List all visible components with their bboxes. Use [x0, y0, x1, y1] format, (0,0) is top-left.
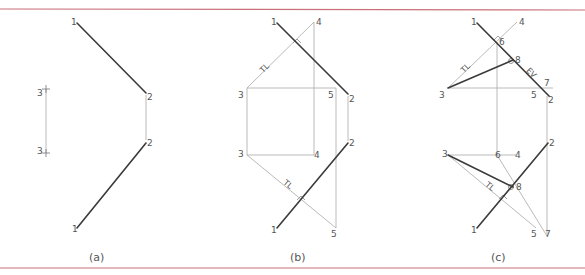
tl-note-top: TL [458, 61, 472, 75]
label-3-bottom: 3 [238, 149, 244, 159]
line-1-2-top-view [277, 23, 348, 94]
label-5-bottom: 5 [531, 229, 537, 239]
label-2-bottom: 2 [549, 138, 555, 148]
label-3-bottom: 3 [442, 149, 448, 159]
label-4-bottom: 4 [515, 150, 521, 160]
caption-c: (c) [491, 251, 506, 264]
label-8-bottom: 8 [516, 182, 522, 192]
label-3-top: 3 [37, 88, 43, 98]
tl-note-bottom: TL [281, 177, 295, 191]
true-length-line-bottom [448, 155, 536, 228]
label-1-top: 1 [471, 17, 477, 27]
label-1-bottom: 1 [271, 225, 277, 235]
line-3-8-top [448, 60, 513, 88]
label-7-top: 7 [544, 78, 550, 88]
label-1-top: 1 [71, 17, 77, 27]
label-2-top: 2 [548, 95, 554, 105]
top-border [0, 9, 585, 10]
label-4-top: 4 [519, 17, 525, 27]
point-3-top-cross-icon [42, 85, 50, 93]
panel-b: 1 4 3 5 2 3 4 2 1 5 TL TL (b) [238, 17, 355, 264]
true-length-line-bottom [247, 155, 336, 228]
label-5-top: 5 [531, 90, 537, 100]
caption-a: (a) [89, 251, 104, 264]
line-1-2-top-view [77, 23, 146, 93]
panel-a: 1 2 3 3 2 1 (a) [37, 17, 153, 264]
tl-note-top: TL [257, 61, 271, 75]
label-5-top: 5 [328, 90, 334, 100]
label-1-bottom: 1 [471, 225, 477, 235]
panel-c: 1 4 6 8 7 3 5 2 3 6 4 2 8 1 5 7 TL EV TL… [439, 17, 555, 264]
label-5-bottom: 5 [331, 229, 337, 239]
label-2-bottom: 2 [349, 138, 355, 148]
label-6-top: 6 [499, 37, 505, 47]
label-2-top: 2 [349, 94, 355, 104]
label-3-bottom: 3 [37, 146, 43, 156]
label-1-bottom: 1 [72, 224, 78, 234]
true-length-line-top [448, 22, 517, 88]
line-1-2-front-view [77, 143, 146, 228]
figure-canvas: 1 2 3 3 2 1 (a) 1 4 3 5 2 3 4 2 1 5 TL [0, 0, 585, 275]
point-3-bottom-cross-icon [42, 149, 50, 157]
caption-b: (b) [290, 251, 306, 264]
label-1-top: 1 [271, 17, 277, 27]
tl-note-bottom: TL [483, 179, 497, 193]
label-3-top: 3 [439, 90, 445, 100]
true-length-line-top [247, 22, 314, 88]
label-8-top: 8 [515, 55, 521, 65]
label-6-bottom: 6 [495, 150, 501, 160]
label-3-top: 3 [238, 90, 244, 100]
label-2-bottom: 2 [147, 138, 153, 148]
label-2-top: 2 [147, 92, 153, 102]
label-7-bottom: 7 [545, 229, 551, 239]
label-4-bottom: 4 [314, 150, 320, 160]
ev-note-top: EV [524, 66, 538, 80]
label-4-top: 4 [316, 17, 322, 27]
